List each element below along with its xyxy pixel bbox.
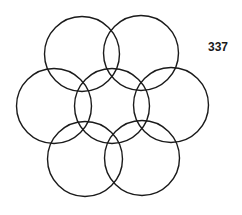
circle-group [17,16,209,197]
figure-number-label: 337 [208,40,228,54]
circle-top-right [104,16,179,91]
circle-right [134,68,209,143]
circle-bottom-right [105,121,180,196]
seven-circles-diagram [0,0,242,215]
